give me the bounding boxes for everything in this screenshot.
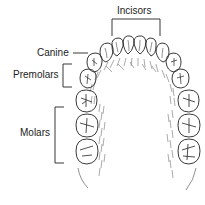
teeth-arch-drawing: [0, 0, 205, 205]
molars-left: [76, 90, 98, 188]
canine-right: [156, 43, 169, 62]
palate-shading: [90, 58, 175, 178]
canine-label: Canine: [37, 48, 69, 58]
incisors-bracket: [112, 19, 160, 36]
incisors-group: [112, 36, 156, 56]
molars-bracket: [55, 107, 64, 163]
premolars-left: [80, 53, 102, 88]
incisor-tooth: [112, 38, 123, 56]
molars-right: [178, 90, 200, 190]
premolars-label: Premolars: [13, 70, 59, 80]
premolars-right: [166, 53, 189, 88]
incisors-label: Incisors: [117, 6, 151, 16]
premolars-bracket: [63, 64, 72, 87]
molars-label: Molars: [20, 128, 50, 138]
